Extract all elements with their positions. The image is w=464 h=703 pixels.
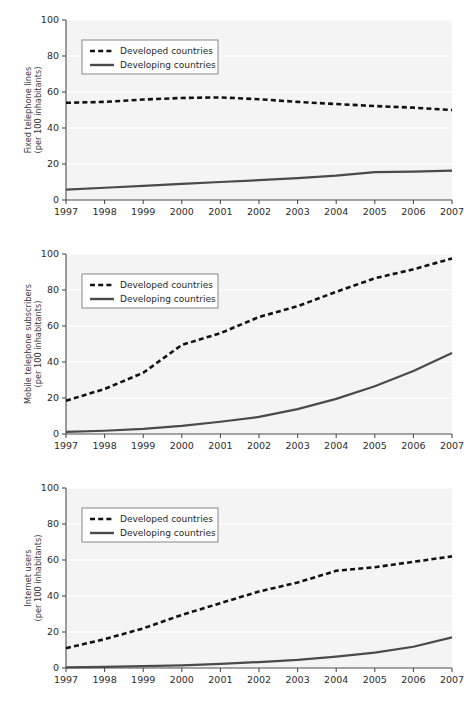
- legend-label-developing: Developing countries: [120, 528, 216, 538]
- legend-label-developing: Developing countries: [120, 60, 216, 70]
- x-tick-label: 2003: [286, 674, 310, 685]
- x-tick-label: 2000: [170, 440, 194, 451]
- x-tick-label: 2001: [208, 206, 232, 217]
- x-tick-label: 2006: [401, 206, 425, 217]
- x-tick-label: 2003: [286, 206, 310, 217]
- y-axis-title-line-1: Internet users: [23, 549, 33, 606]
- multi-panel-line-chart-figure: 0204060801001997199819992000200120022003…: [0, 0, 464, 703]
- y-tick-label: 0: [53, 662, 59, 673]
- y-tick-label: 100: [41, 482, 59, 493]
- y-tick-label: 20: [47, 626, 59, 637]
- y-axis-title-line-2: (per 100 inhabitants): [33, 67, 43, 154]
- y-axis-title-line-1: Fixed telephone lines: [23, 67, 33, 154]
- x-tick-label: 1998: [93, 206, 117, 217]
- x-tick-label: 1997: [54, 440, 78, 451]
- x-tick-label: 2007: [440, 440, 464, 451]
- x-tick-label: 2006: [401, 440, 425, 451]
- x-tick-label: 2007: [440, 206, 464, 217]
- y-axis-title-line-2: (per 100 inhabitants): [33, 301, 43, 388]
- legend-label-developing: Developing countries: [120, 294, 216, 304]
- x-tick-label: 2002: [247, 206, 271, 217]
- y-tick-label: 80: [47, 284, 59, 295]
- x-tick-label: 1997: [54, 206, 78, 217]
- y-tick-label: 40: [47, 356, 59, 367]
- x-tick-label: 2006: [401, 674, 425, 685]
- legend-label-developed: Developed countries: [120, 280, 213, 290]
- legend-label-developed: Developed countries: [120, 514, 213, 524]
- x-tick-label: 2005: [363, 206, 387, 217]
- chart-panel-mobile-telephone-subscribers: 0204060801001997199819992000200120022003…: [0, 234, 464, 468]
- y-tick-label: 100: [41, 14, 59, 25]
- y-axis-title-line-2: (per 100 inhabitants): [33, 535, 43, 622]
- legend-label-developed: Developed countries: [120, 46, 213, 56]
- y-tick-label: 80: [47, 50, 59, 61]
- x-tick-label: 2000: [170, 206, 194, 217]
- x-tick-label: 1999: [131, 440, 155, 451]
- x-tick-label: 1998: [93, 440, 117, 451]
- y-tick-label: 40: [47, 590, 59, 601]
- x-tick-label: 2002: [247, 440, 271, 451]
- y-tick-label: 60: [47, 554, 59, 565]
- x-tick-label: 2005: [363, 674, 387, 685]
- y-axis-title-line-1: Mobile telephone subscribers: [23, 284, 33, 404]
- y-tick-label: 60: [47, 320, 59, 331]
- y-tick-label: 100: [41, 248, 59, 259]
- y-tick-label: 20: [47, 392, 59, 403]
- x-tick-label: 2004: [324, 440, 348, 451]
- x-tick-label: 2001: [208, 674, 232, 685]
- x-tick-label: 1997: [54, 674, 78, 685]
- x-tick-label: 2007: [440, 674, 464, 685]
- x-tick-label: 1999: [131, 206, 155, 217]
- x-tick-label: 1998: [93, 674, 117, 685]
- chart-panel-internet-users: 0204060801001997199819992000200120022003…: [0, 468, 464, 702]
- y-tick-label: 60: [47, 86, 59, 97]
- x-tick-label: 1999: [131, 674, 155, 685]
- chart-svg-panel-2: 0204060801001997199819992000200120022003…: [0, 234, 464, 468]
- x-tick-label: 2004: [324, 206, 348, 217]
- x-tick-label: 2004: [324, 674, 348, 685]
- x-tick-label: 2003: [286, 440, 310, 451]
- y-tick-label: 80: [47, 518, 59, 529]
- y-tick-label: 40: [47, 122, 59, 133]
- y-tick-label: 0: [53, 428, 59, 439]
- x-tick-label: 2000: [170, 674, 194, 685]
- x-tick-label: 2002: [247, 674, 271, 685]
- chart-svg-panel-3: 0204060801001997199819992000200120022003…: [0, 468, 464, 703]
- x-tick-label: 2005: [363, 440, 387, 451]
- chart-panel-fixed-telephone-lines: 0204060801001997199819992000200120022003…: [0, 0, 464, 234]
- chart-svg-panel-1: 0204060801001997199819992000200120022003…: [0, 0, 464, 234]
- x-tick-label: 2001: [208, 440, 232, 451]
- y-tick-label: 20: [47, 158, 59, 169]
- y-tick-label: 0: [53, 194, 59, 205]
